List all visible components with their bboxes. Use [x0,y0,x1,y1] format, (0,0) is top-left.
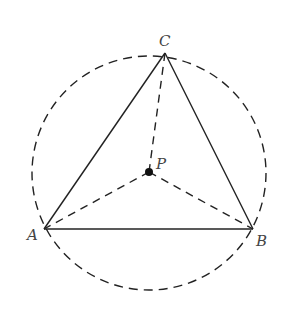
segment-pb [149,172,253,229]
point-p-dot [145,168,153,176]
label-b: B [255,232,267,250]
label-p: P [155,155,167,173]
label-a: A [25,226,38,244]
side-ca [44,53,165,229]
label-c: C [159,32,171,50]
side-bc [165,53,253,229]
geometry-diagram: C A B P [0,0,291,311]
segment-pa [44,172,149,229]
